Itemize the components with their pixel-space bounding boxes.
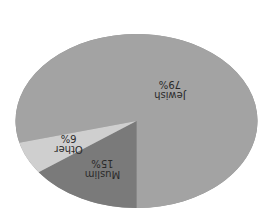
pie-slices (16, 34, 258, 208)
pie-label-muslim: Muslim (85, 169, 120, 180)
pie-value-muslim: 15% (91, 158, 113, 169)
pie-label-jewish: Jewish (154, 90, 187, 101)
pie-chart: Jewish79%Muslim15%Other6% (0, 0, 273, 217)
pie-value-jewish: 79% (159, 79, 181, 90)
pie-value-other: 6% (61, 133, 77, 144)
pie-label-other: Other (54, 144, 83, 155)
